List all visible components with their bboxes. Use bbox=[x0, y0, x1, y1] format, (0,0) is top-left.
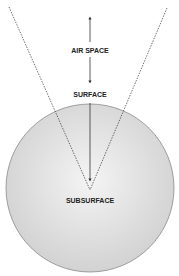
air-space-label: AIR SPACE bbox=[71, 47, 109, 54]
domain-diagram: AIR SPACE SURFACE SUBSURFACE bbox=[0, 0, 179, 276]
subsurface-label: SUBSURFACE bbox=[66, 197, 115, 204]
surface-label: SURFACE bbox=[73, 91, 107, 98]
